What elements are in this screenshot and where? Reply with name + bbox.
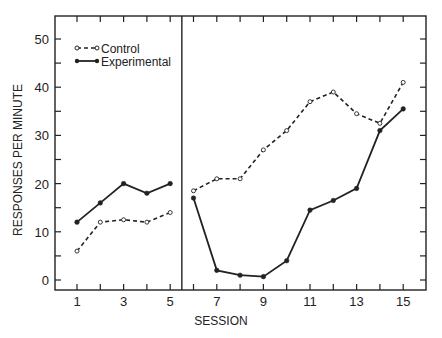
x-tick-label: 11 bbox=[303, 294, 317, 309]
x-tick-label: 15 bbox=[396, 294, 410, 309]
y-axis-label: RESPONSES PER MINUTE bbox=[11, 84, 25, 236]
y-tick-label: 10 bbox=[35, 225, 49, 240]
x-tick-label: 1 bbox=[73, 294, 80, 309]
experimental-point bbox=[331, 198, 336, 203]
experimental-point bbox=[168, 181, 173, 186]
legend-experimental-marker-icon bbox=[95, 59, 99, 63]
control-point bbox=[75, 249, 79, 253]
control-point bbox=[401, 80, 405, 84]
control-point bbox=[308, 100, 312, 104]
experimental-point bbox=[98, 201, 103, 206]
experimental-point bbox=[191, 196, 196, 201]
x-tick-label: 5 bbox=[167, 294, 174, 309]
control-point bbox=[261, 148, 265, 152]
control-point bbox=[378, 121, 382, 125]
experimental-point bbox=[215, 268, 220, 273]
experimental-line bbox=[77, 184, 170, 223]
experimental-point bbox=[354, 186, 359, 191]
experimental-point bbox=[145, 191, 150, 196]
experimental-point bbox=[238, 273, 243, 278]
experimental-line bbox=[194, 109, 404, 277]
y-tick-label: 40 bbox=[35, 80, 49, 95]
control-point bbox=[168, 211, 172, 215]
control-point bbox=[192, 189, 196, 193]
legend-control-label: Control bbox=[101, 42, 140, 56]
legend-experimental-marker-icon bbox=[75, 59, 79, 63]
legend-experimental-label: Experimental bbox=[101, 55, 171, 69]
legend-control-marker-icon bbox=[75, 46, 79, 50]
control-point bbox=[285, 129, 289, 133]
control-line bbox=[194, 82, 404, 190]
control-point bbox=[145, 220, 149, 224]
x-tick-label: 13 bbox=[349, 294, 363, 309]
experimental-point bbox=[308, 208, 313, 213]
x-tick-label: 7 bbox=[213, 294, 220, 309]
x-tick-label: 9 bbox=[260, 294, 267, 309]
data-lines bbox=[75, 80, 406, 279]
line-chart: 1357911131501020304050 Control Experimen… bbox=[0, 0, 442, 338]
y-tick-label: 20 bbox=[35, 177, 49, 192]
x-axis-label: SESSION bbox=[194, 314, 247, 328]
x-tick-label: 3 bbox=[120, 294, 127, 309]
control-point bbox=[238, 177, 242, 181]
experimental-point bbox=[261, 274, 266, 279]
experimental-point bbox=[378, 128, 383, 133]
experimental-point bbox=[401, 107, 406, 112]
control-point bbox=[331, 90, 335, 94]
y-tick-label: 50 bbox=[35, 32, 49, 47]
y-tick-label: 30 bbox=[35, 128, 49, 143]
experimental-point bbox=[121, 181, 126, 186]
control-point bbox=[98, 220, 102, 224]
experimental-point bbox=[75, 220, 80, 225]
y-tick-label: 0 bbox=[42, 273, 49, 288]
legend: Control Experimental bbox=[75, 42, 171, 69]
control-point bbox=[215, 177, 219, 181]
experimental-point bbox=[284, 258, 289, 263]
legend-control-marker-icon bbox=[95, 46, 99, 50]
control-point bbox=[122, 218, 126, 222]
control-point bbox=[355, 112, 359, 116]
